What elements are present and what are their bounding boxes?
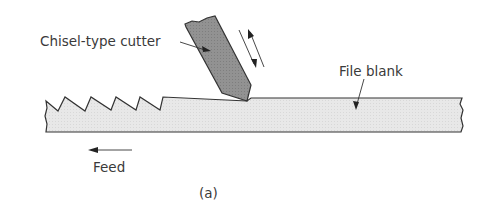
blank-label: File blank bbox=[339, 63, 403, 79]
arrow-left-icon bbox=[88, 147, 98, 153]
arrow-up-icon bbox=[248, 29, 254, 39]
caption-label: (a) bbox=[199, 185, 218, 201]
motion-arrow-up bbox=[250, 32, 264, 67]
feed-label: Feed bbox=[93, 159, 125, 175]
chisel-cutter bbox=[185, 16, 251, 101]
file-blank bbox=[45, 97, 463, 132]
arrow-down-icon bbox=[251, 59, 257, 68]
cutter-label: Chisel-type cutter bbox=[40, 33, 161, 49]
